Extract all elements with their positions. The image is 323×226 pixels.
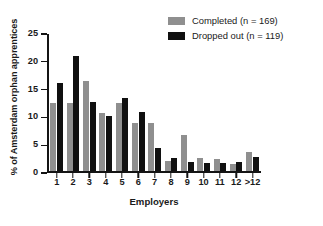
x-axis-tick-label: 10 bbox=[198, 178, 208, 187]
bar-dropped-out bbox=[220, 163, 226, 172]
y-axis-tick-label: 10 bbox=[28, 113, 38, 122]
x-axis-tick-label: 5 bbox=[119, 178, 124, 187]
bar-dropped-out bbox=[73, 56, 79, 171]
bar-group bbox=[228, 34, 244, 171]
bar-group bbox=[49, 34, 65, 171]
bar-completed bbox=[214, 159, 220, 172]
bar-dropped-out bbox=[57, 83, 63, 171]
bar-dropped-out bbox=[236, 162, 242, 171]
bar-completed bbox=[148, 123, 154, 172]
x-axis-tick: 10 bbox=[195, 173, 211, 187]
bar-dropped-out bbox=[122, 98, 128, 172]
bar-group bbox=[114, 34, 130, 171]
bar-dropped-out bbox=[139, 112, 145, 172]
bar-group bbox=[65, 34, 81, 171]
x-axis-tick-label: >12 bbox=[245, 178, 261, 187]
legend-label: Dropped out (n = 119) bbox=[192, 31, 283, 40]
y-axis-tick-label: 15 bbox=[28, 85, 38, 94]
bar-group bbox=[195, 34, 211, 171]
bar-completed bbox=[197, 158, 203, 171]
x-axis-tick-label: 3 bbox=[87, 178, 92, 187]
x-axis-tick: 11 bbox=[212, 173, 228, 187]
bar-completed bbox=[50, 103, 56, 172]
y-axis-tick: 10 bbox=[41, 117, 47, 118]
bar-groups bbox=[49, 34, 261, 171]
y-axis-tick: 25 bbox=[41, 33, 47, 34]
y-axis-tick-label: 0 bbox=[33, 168, 38, 177]
bar-group bbox=[212, 34, 228, 171]
y-axis-tick: 0 bbox=[41, 172, 47, 173]
x-axis-tick-label: 8 bbox=[168, 178, 173, 187]
x-axis-tick: 1 bbox=[49, 173, 65, 187]
bar-completed bbox=[116, 103, 122, 172]
x-axis-tick: 2 bbox=[65, 173, 81, 187]
legend-swatch-icon bbox=[168, 17, 185, 25]
bar-group bbox=[179, 34, 195, 171]
bar-completed bbox=[99, 113, 105, 171]
legend-label: Completed (n = 169) bbox=[192, 16, 278, 25]
x-axis-tick: 8 bbox=[163, 173, 179, 187]
y-axis-tick: 15 bbox=[41, 89, 47, 90]
bar-dropped-out bbox=[106, 116, 112, 171]
bar-completed bbox=[230, 164, 236, 171]
y-axis-title: % of Amsterdam orphan apprentices bbox=[9, 0, 19, 197]
x-axis-tick-label: 4 bbox=[103, 178, 108, 187]
x-axis-title: Employers bbox=[47, 196, 261, 207]
x-axis-tick-label: 11 bbox=[215, 178, 225, 187]
x-axis-tick: 4 bbox=[98, 173, 114, 187]
bar-dropped-out bbox=[155, 148, 161, 171]
bar-group bbox=[130, 34, 146, 171]
bar-completed bbox=[165, 161, 171, 171]
bar-completed bbox=[246, 152, 252, 171]
plot-area: 0510152025 bbox=[47, 34, 261, 173]
x-axis-tick: 7 bbox=[146, 173, 162, 187]
bar-group bbox=[146, 34, 162, 171]
bar-dropped-out bbox=[204, 163, 210, 172]
bar-chart-figure: % of Amsterdam orphan apprentices 051015… bbox=[0, 0, 323, 226]
x-axis-tick: 5 bbox=[114, 173, 130, 187]
legend-item: Dropped out (n = 119) bbox=[168, 29, 283, 42]
y-axis-tick: 5 bbox=[41, 145, 47, 146]
x-axis-tick-label: 6 bbox=[136, 178, 141, 187]
x-axis-tick-label: 2 bbox=[71, 178, 76, 187]
bar-dropped-out bbox=[171, 158, 177, 172]
x-axis-tick-label: 9 bbox=[185, 178, 190, 187]
y-axis-tick-label: 25 bbox=[28, 29, 38, 38]
bar-dropped-out bbox=[188, 162, 194, 171]
x-axis-tick: 12 bbox=[228, 173, 244, 187]
y-axis-tick-label: 5 bbox=[33, 141, 38, 150]
bar-group bbox=[244, 34, 260, 171]
x-axis-tick-label: 7 bbox=[152, 178, 157, 187]
bar-completed bbox=[67, 103, 73, 172]
bar-completed bbox=[83, 81, 89, 172]
y-axis-tick-label: 20 bbox=[28, 57, 38, 66]
bar-dropped-out bbox=[90, 102, 96, 171]
bar-completed bbox=[132, 123, 138, 172]
bar-group bbox=[81, 34, 97, 171]
x-axis-tick: 9 bbox=[179, 173, 195, 187]
x-axis-tick-label: 1 bbox=[54, 178, 59, 187]
bar-dropped-out bbox=[253, 157, 259, 171]
legend-item: Completed (n = 169) bbox=[168, 14, 283, 27]
bar-group bbox=[98, 34, 114, 171]
x-axis-tick: 6 bbox=[130, 173, 146, 187]
y-axis-tick: 20 bbox=[41, 61, 47, 62]
x-axis-ticks: 123456789101112>12 bbox=[49, 173, 261, 187]
chart-legend: Completed (n = 169)Dropped out (n = 119) bbox=[168, 14, 283, 44]
x-axis-tick-label: 12 bbox=[231, 178, 241, 187]
x-axis-tick: 3 bbox=[81, 173, 97, 187]
x-axis-tick: >12 bbox=[244, 173, 260, 187]
bar-group bbox=[163, 34, 179, 171]
bar-completed bbox=[181, 135, 187, 171]
legend-swatch-icon bbox=[168, 32, 185, 40]
